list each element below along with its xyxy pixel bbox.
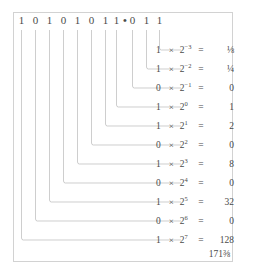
equals-symbol: = <box>197 100 205 114</box>
times-symbol: × <box>165 214 177 228</box>
row-base: 2−2 <box>180 62 192 76</box>
row-base: 24 <box>180 176 188 190</box>
row-base: 2−3 <box>180 43 192 57</box>
row-base: 23 <box>180 157 188 171</box>
row-value: 128 <box>208 233 234 247</box>
row-value: 2 <box>208 119 234 133</box>
row-bit: 1 <box>156 119 163 133</box>
equals-symbol: = <box>197 214 205 228</box>
row-base: 20 <box>180 100 188 114</box>
row-value: 0 <box>208 138 234 152</box>
total-value: 171⅜ <box>196 249 230 260</box>
row-exponent: −2 <box>185 62 192 69</box>
times-symbol: × <box>165 176 177 190</box>
equals-symbol: = <box>197 157 205 171</box>
row-exponent: −3 <box>185 43 192 50</box>
equals-symbol: = <box>197 138 205 152</box>
equals-symbol: = <box>197 81 205 95</box>
place-value-rows: 1 × 2−3 = ⅛ 1 × 2−2 = ¼ 0 × 2−1 = 0 1 × … <box>0 0 253 276</box>
row-base: 26 <box>180 214 188 228</box>
row-bit: 0 <box>156 81 163 95</box>
row-value: 0 <box>208 81 234 95</box>
row-exponent: 7 <box>185 233 188 240</box>
times-symbol: × <box>165 43 177 57</box>
equals-symbol: = <box>197 119 205 133</box>
row-base: 25 <box>180 195 188 209</box>
place-value-row: 1 × 2−2 = ¼ <box>156 62 191 76</box>
row-bit: 1 <box>156 43 163 57</box>
row-bit: 1 <box>156 100 163 114</box>
times-symbol: × <box>165 195 177 209</box>
times-symbol: × <box>165 62 177 76</box>
place-value-row: 0 × 22 = 0 <box>156 138 188 152</box>
place-value-row: 0 × 26 = 0 <box>156 214 188 228</box>
row-value: 0 <box>208 176 234 190</box>
place-value-row: 0 × 2−1 = 0 <box>156 81 191 95</box>
equals-symbol: = <box>197 176 205 190</box>
times-symbol: × <box>165 157 177 171</box>
place-value-row: 1 × 27 = 128 <box>156 233 188 247</box>
place-value-row: 1 × 23 = 8 <box>156 157 188 171</box>
times-symbol: × <box>165 138 177 152</box>
row-value: 32 <box>208 195 234 209</box>
row-exponent: 4 <box>185 176 188 183</box>
row-base: 27 <box>180 233 188 247</box>
row-exponent: 3 <box>185 157 188 164</box>
equals-symbol: = <box>197 62 205 76</box>
row-exponent: 0 <box>185 100 188 107</box>
row-exponent: 5 <box>185 195 188 202</box>
equals-symbol: = <box>197 43 205 57</box>
place-value-row: 1 × 20 = 1 <box>156 100 188 114</box>
equals-symbol: = <box>197 195 205 209</box>
row-value: 8 <box>208 157 234 171</box>
place-value-row: 1 × 2−3 = ⅛ <box>156 43 191 57</box>
times-symbol: × <box>165 119 177 133</box>
row-value: 1 <box>208 100 234 114</box>
row-bit: 0 <box>156 214 163 228</box>
row-value: ⅛ <box>208 43 234 57</box>
place-value-row: 1 × 21 = 2 <box>156 119 188 133</box>
row-exponent: 2 <box>185 138 188 145</box>
place-value-row: 0 × 24 = 0 <box>156 176 188 190</box>
row-exponent: 6 <box>185 214 188 221</box>
row-value: 0 <box>208 214 234 228</box>
row-bit: 0 <box>156 176 163 190</box>
row-exponent: −1 <box>185 81 192 88</box>
times-symbol: × <box>165 233 177 247</box>
row-base: 2−1 <box>180 81 192 95</box>
row-value: ¼ <box>208 62 234 76</box>
times-symbol: × <box>165 81 177 95</box>
row-bit: 1 <box>156 233 163 247</box>
place-value-row: 1 × 25 = 32 <box>156 195 188 209</box>
row-bit: 1 <box>156 195 163 209</box>
row-bit: 1 <box>156 62 163 76</box>
row-bit: 0 <box>156 138 163 152</box>
row-base: 21 <box>180 119 188 133</box>
row-exponent: 1 <box>185 119 188 126</box>
row-bit: 1 <box>156 157 163 171</box>
equals-symbol: = <box>197 233 205 247</box>
row-base: 22 <box>180 138 188 152</box>
binary-place-value-figure: 1 0 1 0 1 0 1 1 • 0 1 1 <box>0 0 253 276</box>
times-symbol: × <box>165 100 177 114</box>
